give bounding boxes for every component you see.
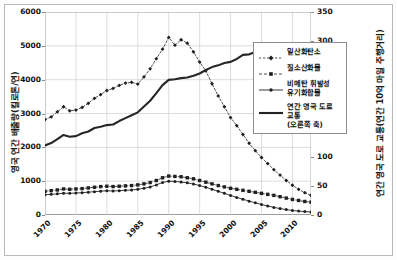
chart-legend: 일산화탄소질소산화물비메탄 휘발성유기화합물연간 영국 도로 교통(오른쪽 축) [253, 42, 347, 134]
legend-label: 질소산화물 [287, 63, 321, 72]
legend-label: 일산화탄소 [287, 47, 321, 56]
y-axis-left-tick: 0 [13, 211, 41, 219]
y-axis-right-tick-mark [311, 215, 314, 216]
legend-label: 비메탄 휘발성유기화합물 [287, 79, 330, 97]
y-axis-right-tick-mark [311, 12, 314, 13]
chart-figure: 영국 연간 배출량(킬로톤/연) 연간 영국 도로 교통(연간 10억 마일 주… [0, 0, 397, 260]
y-axis-left-title: 영국 연간 배출량(킬로톤/연) [11, 47, 20, 197]
legend-swatch-icon [258, 48, 284, 58]
legend-item[interactable]: 비메탄 휘발성유기화합물 [258, 79, 341, 97]
legend-swatch-icon [258, 103, 284, 113]
legend-item[interactable]: 연간 영국 도로 교통(오른쪽 축) [258, 102, 341, 129]
legend-item[interactable]: 질소산화물 [258, 63, 341, 74]
y-axis-right-tick-mark [311, 186, 314, 187]
y-axis-left-tick: 6000 [13, 8, 41, 16]
y-axis-right-tick: 50 [317, 182, 345, 190]
y-axis-left-tick-mark [42, 215, 45, 216]
y-axis-left-tick: 2000 [13, 143, 41, 151]
legend-swatch-icon [258, 80, 284, 90]
y-axis-left-tick: 1000 [13, 177, 41, 185]
y-axis-right-tick-mark [311, 157, 314, 158]
y-axis-left-tick: 4000 [13, 76, 41, 84]
y-axis-right-tick: 100 [317, 153, 345, 161]
y-axis-left-tick: 5000 [13, 42, 41, 50]
y-axis-left-tick: 3000 [13, 110, 41, 118]
y-axis-right-title: 연간 영국 도로 교통(연간 10억 마일 주행거리) [376, 47, 385, 197]
legend-item[interactable]: 일산화탄소 [258, 47, 341, 58]
legend-label: 연간 영국 도로 교통(오른쪽 축) [287, 102, 341, 129]
y-axis-right-tick: 350 [317, 8, 345, 16]
legend-swatch-icon [258, 64, 284, 74]
y-axis-right-tick: 0 [317, 211, 345, 219]
